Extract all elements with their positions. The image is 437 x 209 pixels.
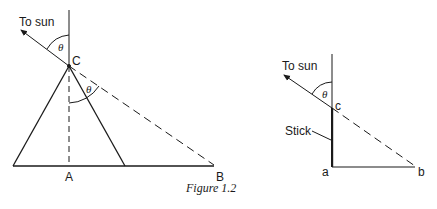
point-a-lower-label: a [322,165,329,179]
stick-leader-line [312,131,331,140]
right-sun-label: To sun [282,59,317,73]
pyramid-left-edge [13,66,69,166]
left-theta-lower: θ [86,83,92,95]
figure-canvas: To sun C θ θ A B To sun c θ Stick a b Fi… [0,0,437,209]
right-shadow-dashed-line [332,108,415,166]
shadow-dashed-line [69,66,214,165]
stick [331,108,333,167]
right-theta: θ [322,88,328,100]
figure-caption: Figure 1.2 [185,181,236,195]
left-sun-label: To sun [19,15,54,29]
left-diagram [13,10,214,166]
point-b-lower-label: b [418,165,425,179]
pyramid-right-edge [69,66,125,166]
apex-c-label: C [72,54,81,68]
apex-point [68,65,71,68]
top-c-label: c [335,99,341,113]
stick-label: Stick [285,124,312,138]
angle-arc-lower [69,86,99,103]
left-theta-upper: θ [58,41,64,53]
point-a-label: A [65,170,73,184]
